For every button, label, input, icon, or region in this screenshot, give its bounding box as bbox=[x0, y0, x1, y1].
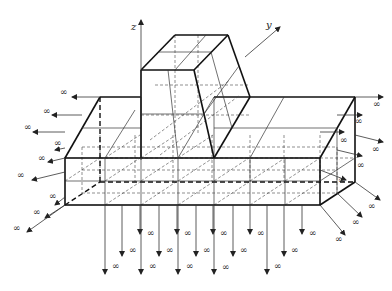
svg-text:∞: ∞ bbox=[352, 217, 360, 227]
svg-text:∞: ∞ bbox=[24, 122, 32, 132]
svg-text:∞: ∞ bbox=[17, 170, 25, 180]
svg-text:∞: ∞ bbox=[335, 234, 343, 244]
svg-text:∞: ∞ bbox=[43, 106, 51, 116]
y-axis bbox=[245, 27, 280, 57]
svg-text:∞: ∞ bbox=[54, 138, 62, 148]
mesh-diagram: z y ∞ ∞ ∞ ∞ ∞ ∞ ∞ ∞ ∞ ∞ ∞ ∞ ∞ ∞ ∞ bbox=[0, 0, 392, 291]
svg-text:∞: ∞ bbox=[186, 261, 194, 271]
svg-text:∞: ∞ bbox=[112, 261, 120, 271]
svg-text:∞: ∞ bbox=[147, 228, 155, 238]
svg-text:∞: ∞ bbox=[49, 191, 57, 201]
svg-text:∞: ∞ bbox=[355, 116, 363, 126]
svg-text:∞: ∞ bbox=[338, 175, 346, 185]
svg-text:∞: ∞ bbox=[357, 160, 365, 170]
svg-text:∞: ∞ bbox=[60, 87, 68, 97]
svg-text:∞: ∞ bbox=[222, 262, 230, 272]
svg-text:∞: ∞ bbox=[203, 245, 211, 255]
svg-text:∞: ∞ bbox=[33, 207, 41, 217]
svg-text:∞: ∞ bbox=[13, 223, 21, 233]
svg-text:∞: ∞ bbox=[274, 261, 282, 271]
z-axis-label: z bbox=[130, 21, 137, 32]
svg-text:∞: ∞ bbox=[166, 245, 174, 255]
main-box-hidden-grid bbox=[65, 135, 355, 205]
svg-text:∞: ∞ bbox=[129, 245, 137, 255]
svg-text:∞: ∞ bbox=[372, 144, 380, 154]
main-box bbox=[65, 97, 355, 205]
svg-text:∞: ∞ bbox=[38, 153, 46, 163]
svg-text:∞: ∞ bbox=[368, 201, 376, 211]
svg-text:∞: ∞ bbox=[220, 228, 228, 238]
coordinate-axes: z y bbox=[130, 19, 280, 160]
main-box-hidden-edges bbox=[65, 97, 355, 205]
svg-text:∞: ∞ bbox=[291, 245, 299, 255]
svg-text:∞: ∞ bbox=[257, 228, 265, 238]
svg-text:∞: ∞ bbox=[149, 261, 157, 271]
bottom-infinite-arrows: ∞ ∞ ∞ ∞ ∞ ∞ ∞ ∞ ∞ ∞ ∞ ∞ ∞ ∞ ∞ bbox=[105, 205, 317, 274]
y-axis-label: y bbox=[265, 19, 272, 30]
svg-text:∞: ∞ bbox=[240, 245, 248, 255]
svg-text:∞: ∞ bbox=[373, 99, 381, 109]
svg-text:∞: ∞ bbox=[340, 135, 348, 145]
right-infinite-arrows: ∞ ∞ ∞ ∞ ∞ ∞ ∞ ∞ ∞ bbox=[320, 97, 383, 244]
svg-text:∞: ∞ bbox=[184, 228, 192, 238]
svg-text:∞: ∞ bbox=[309, 228, 317, 238]
left-infinite-arrows: ∞ ∞ ∞ ∞ ∞ ∞ ∞ ∞ ∞ bbox=[13, 87, 100, 233]
